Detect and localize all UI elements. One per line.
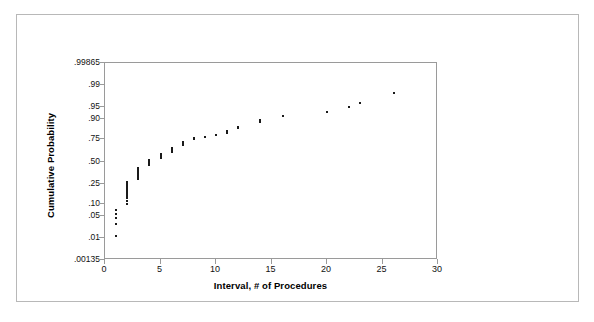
- data-point: [226, 130, 228, 132]
- data-point: [126, 195, 128, 197]
- data-point: [259, 121, 261, 123]
- x-axis-tick-mark: [326, 259, 327, 264]
- data-point: [115, 209, 117, 211]
- data-point: [226, 132, 228, 134]
- scatter-points-layer: [105, 63, 436, 258]
- x-axis-tick-label: 25: [370, 264, 394, 274]
- data-point: [126, 197, 128, 199]
- x-axis-tick-label: 30: [425, 264, 449, 274]
- plot-area: [104, 62, 437, 259]
- data-point: [171, 147, 173, 149]
- x-axis-tick-mark: [437, 259, 438, 264]
- data-point: [204, 136, 206, 138]
- data-point: [115, 217, 117, 219]
- data-point: [137, 167, 139, 169]
- data-point: [259, 119, 261, 121]
- data-point: [393, 92, 395, 94]
- x-axis-tick-mark: [271, 259, 272, 264]
- data-point: [182, 141, 184, 143]
- x-axis-tick-mark: [160, 259, 161, 264]
- data-point: [126, 181, 128, 183]
- data-point: [137, 176, 139, 178]
- data-point: [115, 223, 117, 225]
- data-point: [126, 191, 128, 193]
- data-point: [348, 106, 350, 108]
- x-axis-tick-mark: [104, 259, 105, 264]
- data-point: [126, 193, 128, 195]
- data-point: [359, 102, 361, 104]
- data-point: [326, 111, 328, 113]
- data-point: [237, 126, 239, 128]
- data-point: [137, 174, 139, 176]
- x-axis-tick-label: 20: [314, 264, 338, 274]
- y-axis-tick-label: .99865: [74, 58, 100, 67]
- data-point: [160, 153, 162, 155]
- data-point: [115, 213, 117, 215]
- x-axis-tick-mark: [215, 259, 216, 264]
- figure-page: Cumulative Probability .00135.01.05.10.2…: [0, 0, 594, 322]
- x-axis-tick-label: 5: [148, 264, 172, 274]
- data-point: [193, 137, 195, 139]
- data-point: [137, 172, 139, 174]
- y-axis-tick-label: .00135: [74, 255, 100, 264]
- y-axis-title: Cumulative Probability: [45, 113, 56, 218]
- x-axis-tick-label: 0: [92, 264, 116, 274]
- data-point: [137, 171, 139, 173]
- data-point: [137, 178, 139, 180]
- data-point: [115, 235, 117, 237]
- data-point: [126, 200, 128, 202]
- data-point: [215, 134, 217, 136]
- data-point: [126, 189, 128, 191]
- x-axis-tick-label: 15: [259, 264, 283, 274]
- data-point: [126, 203, 128, 205]
- x-axis-tick-label: 10: [203, 264, 227, 274]
- x-axis-tick-mark: [382, 259, 383, 264]
- data-point: [126, 188, 128, 190]
- x-axis-title: Interval, # of Procedures: [104, 280, 437, 291]
- data-point: [148, 159, 150, 161]
- data-point: [282, 115, 284, 117]
